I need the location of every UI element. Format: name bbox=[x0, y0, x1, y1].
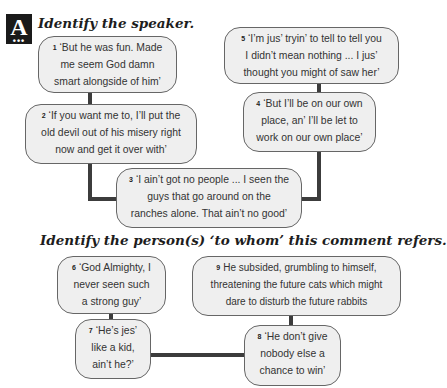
quote-box-9: 9He subsided, grumbling to himself, thre… bbox=[192, 256, 401, 316]
quote-box-4: 4‘But I’ll be on our own place, an’ I’ll… bbox=[243, 92, 376, 152]
badge-letter: A bbox=[6, 14, 32, 38]
connector-1-2 bbox=[88, 91, 92, 105]
connector-7-8 bbox=[149, 353, 245, 357]
section-a-badge: A ••• bbox=[6, 14, 32, 44]
quote-box-3: 3‘I ain’t got no people ... I seen the g… bbox=[116, 168, 302, 228]
connector-4-3-horizontal bbox=[300, 197, 321, 201]
connector-2-3-vertical bbox=[88, 163, 92, 201]
section2-heading: Identify the person(s) ‘to whom’ this co… bbox=[40, 232, 447, 248]
quote-box-8: 8‘He don’t give nobody else a chance to … bbox=[244, 325, 341, 386]
section1-heading: Identify the speaker. bbox=[38, 15, 194, 31]
quote-box-5: 5‘I’m jus’ tryin’ to tell to tell you I … bbox=[224, 27, 399, 84]
quote-box-1: 1‘But he was fun. Made me seem God damn … bbox=[38, 36, 177, 93]
quote-box-2: 2‘If you want me to, I’ll put the old de… bbox=[25, 104, 197, 164]
connector-2-3-horizontal bbox=[88, 197, 118, 201]
quote-box-7: 7‘He’s jes’ like a kid, ain’t he?’ bbox=[75, 319, 151, 379]
connector-4-3-vertical bbox=[317, 151, 321, 201]
quote-box-6: 6‘God Almighty, I never seen such a stro… bbox=[57, 256, 166, 314]
